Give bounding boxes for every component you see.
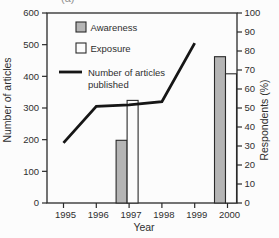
y-right-tick-label: 90 [245, 26, 256, 37]
y-left-tick-label: 600 [23, 7, 39, 18]
y-left-tick-label: 200 [23, 134, 39, 145]
legend-swatch-awareness [76, 22, 86, 32]
x-tick-label-1997: 1997 [121, 209, 142, 220]
x-tick-label-1995: 1995 [55, 209, 76, 220]
y-right-tick-label: 60 [245, 83, 256, 94]
y-right-tick-label: 50 [245, 102, 256, 113]
y-right-tick-label: 20 [245, 159, 256, 170]
y-right-tick-label: 10 [245, 178, 256, 189]
x-tick-label-1998: 1998 [153, 209, 174, 220]
y-left-tick-label: 100 [23, 166, 39, 177]
y-right-tick-label: 30 [245, 140, 256, 151]
legend-label-line-2: published [88, 79, 129, 90]
figure-part-label: (a) [61, 0, 74, 4]
bar-exposure-1997 [127, 100, 138, 203]
x-tick-label-1996: 1996 [88, 209, 109, 220]
y-right-axis-title: Respondents (%) [258, 79, 270, 160]
y-left-tick-label: 0 [34, 197, 39, 208]
plot-frame [47, 13, 237, 203]
legend [59, 22, 86, 72]
y-right-tick-label: 80 [245, 45, 256, 56]
bar-awareness-2000 [215, 57, 226, 203]
y-right-tick-label: 100 [245, 7, 261, 18]
chart-canvas: 0100200300400500600010203040506070809010… [0, 0, 279, 238]
x-tick-label-2000: 2000 [219, 209, 240, 220]
y-left-axis-title: Number of articles [1, 57, 13, 142]
legend-label-line-1: Number of articles [88, 67, 165, 78]
x-axis-title: Year [133, 221, 155, 233]
y-left-tick-label: 300 [23, 102, 39, 113]
bar-exposure-2000 [226, 74, 237, 203]
legend-label-awareness: Awareness [91, 22, 138, 33]
bar-awareness-1997 [116, 140, 127, 203]
legend-swatch-exposure [76, 43, 86, 53]
figure: (a) 010020030040050060001020304050607080… [0, 0, 279, 238]
x-tick-label-1999: 1999 [186, 209, 207, 220]
y-right-tick-label: 40 [245, 121, 256, 132]
y-left-tick-label: 400 [23, 71, 39, 82]
y-right-tick-label: 70 [245, 64, 256, 75]
y-left-tick-label: 500 [23, 39, 39, 50]
legend-label-exposure: Exposure [91, 43, 131, 54]
y-right-tick-label: 0 [245, 197, 250, 208]
